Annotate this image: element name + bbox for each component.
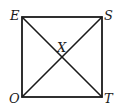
vertex-label-s: S [104, 8, 113, 23]
vertex-label-o: O [9, 91, 20, 106]
intersection-label-x: X [56, 40, 67, 55]
vertex-label-e: E [9, 8, 20, 23]
square-diagram: E S T O X [0, 0, 119, 107]
vertex-label-t: T [104, 91, 114, 106]
